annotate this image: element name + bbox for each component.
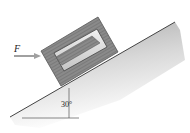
force-label: F [13, 43, 21, 54]
incline-diagram: F 30° [0, 0, 190, 133]
angle-label: 30° [61, 100, 72, 109]
